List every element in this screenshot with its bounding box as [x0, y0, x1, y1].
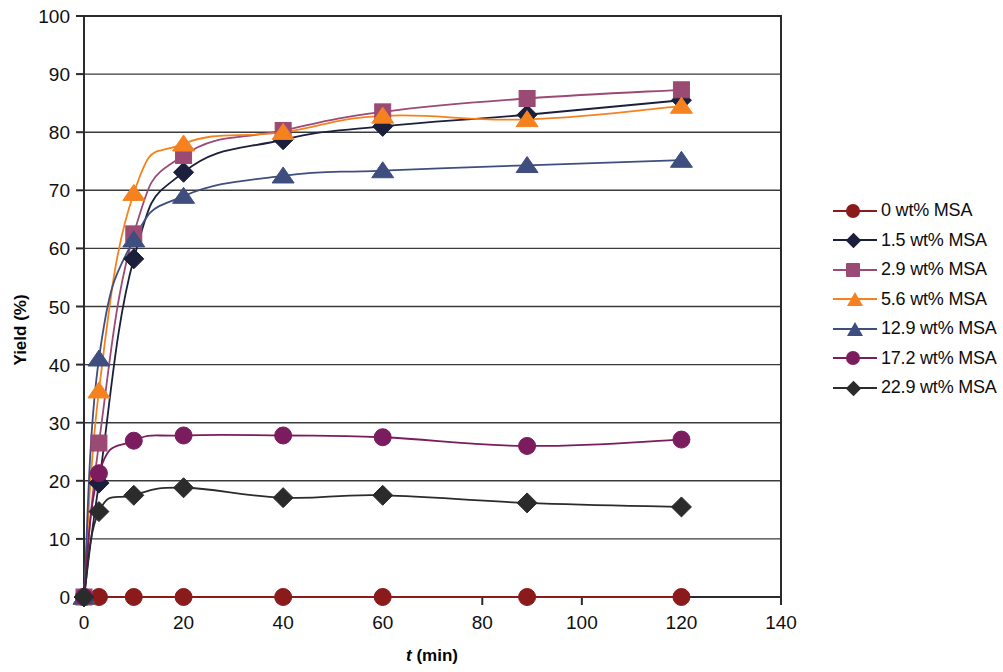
y-tick-label: 40 — [49, 355, 70, 376]
y-tick-label: 100 — [38, 6, 70, 27]
y-tick-label: 0 — [59, 587, 70, 608]
legend-marker-square-icon — [846, 263, 860, 277]
data-point-22-9-wt-msa — [671, 497, 691, 517]
legend-key-0-wt-msa — [833, 201, 877, 221]
data-point-0-wt-msa — [175, 589, 192, 606]
data-point-2-9-wt-msa — [673, 82, 689, 98]
legend-label-1-5-wt-msa: 1.5 wt% MSA — [877, 230, 987, 251]
legend-item-0-wt-msa[interactable]: 0 wt% MSA — [833, 196, 1003, 226]
y-tick-label: 90 — [49, 64, 70, 85]
data-point-17-2-wt-msa — [673, 431, 690, 448]
x-tick-label: 120 — [666, 612, 698, 633]
x-tick-label: 140 — [765, 612, 797, 633]
data-point-12-9-wt-msa — [88, 350, 110, 366]
chart-page: 0102030405060708090100 02040608010012014… — [0, 0, 1003, 672]
data-point-17-2-wt-msa — [275, 427, 292, 444]
legend-label-12-9-wt-msa: 12.9 wt% MSA — [877, 318, 997, 339]
x-tick-label: 60 — [372, 612, 393, 633]
x-tick-label: 80 — [472, 612, 493, 633]
chart-legend: 0 wt% MSA1.5 wt% MSA2.9 wt% MSA5.6 wt% M… — [833, 196, 1003, 403]
data-point-12-9-wt-msa — [670, 151, 692, 167]
x-tick-label: 20 — [173, 612, 194, 633]
chart-container: 0102030405060708090100 02040608010012014… — [0, 0, 820, 672]
x-axis-title-units: (min) — [412, 646, 458, 665]
legend-key-12-9-wt-msa — [833, 319, 877, 339]
y-tick-label: 20 — [49, 471, 70, 492]
y-axis-tick-labels: 0102030405060708090100 — [38, 6, 70, 608]
y-tick-label: 50 — [49, 297, 70, 318]
data-point-17-2-wt-msa — [175, 427, 192, 444]
x-tick-label: 0 — [79, 612, 90, 633]
x-tick-label: 40 — [273, 612, 294, 633]
data-point-0-wt-msa — [519, 589, 536, 606]
x-tick-label: 100 — [566, 612, 598, 633]
data-point-0-wt-msa — [275, 589, 292, 606]
data-point-5-6-wt-msa — [123, 184, 145, 200]
y-tick-label: 80 — [49, 122, 70, 143]
data-point-17-2-wt-msa — [90, 465, 107, 482]
legend-key-1-5-wt-msa — [833, 230, 877, 250]
legend-key-2-9-wt-msa — [833, 260, 877, 280]
legend-marker-circle-icon — [846, 351, 860, 365]
data-point-22-9-wt-msa — [517, 493, 537, 513]
data-point-22-9-wt-msa — [373, 485, 393, 505]
legend-item-17-2-wt-msa[interactable]: 17.2 wt% MSA — [833, 344, 1003, 374]
legend-label-2-9-wt-msa: 2.9 wt% MSA — [877, 259, 987, 280]
data-point-5-6-wt-msa — [173, 135, 195, 151]
legend-item-2-9-wt-msa[interactable]: 2.9 wt% MSA — [833, 255, 1003, 285]
series-markers — [73, 82, 692, 607]
y-tick-label: 60 — [49, 238, 70, 259]
legend-label-0-wt-msa: 0 wt% MSA — [877, 200, 972, 221]
data-point-2-9-wt-msa — [91, 435, 107, 451]
y-tick-label: 70 — [49, 180, 70, 201]
data-point-17-2-wt-msa — [125, 432, 142, 449]
legend-item-12-9-wt-msa[interactable]: 12.9 wt% MSA — [833, 314, 1003, 344]
legend-item-1-5-wt-msa[interactable]: 1.5 wt% MSA — [833, 226, 1003, 256]
legend-marker-diamond-icon — [846, 380, 862, 396]
data-point-0-wt-msa — [673, 589, 690, 606]
data-point-1-5-wt-msa — [174, 162, 194, 182]
series-line — [84, 435, 681, 597]
legend-marker-circle-icon — [846, 204, 860, 218]
yield-vs-time-line-chart: 0102030405060708090100 02040608010012014… — [0, 0, 820, 672]
legend-label-17-2-wt-msa: 17.2 wt% MSA — [877, 348, 997, 369]
legend-key-5-6-wt-msa — [833, 289, 877, 309]
legend-item-22-9-wt-msa[interactable]: 22.9 wt% MSA — [833, 373, 1003, 403]
legend-key-17-2-wt-msa — [833, 348, 877, 368]
x-axis-tick-labels: 020406080100120140 — [79, 612, 797, 633]
data-point-0-wt-msa — [125, 589, 142, 606]
y-axis-title: Yield (%) — [11, 294, 30, 365]
data-point-2-9-wt-msa — [519, 91, 535, 107]
x-axis-title: t (min) — [406, 646, 458, 665]
data-point-0-wt-msa — [374, 589, 391, 606]
data-point-22-9-wt-msa — [273, 488, 293, 508]
legend-key-22-9-wt-msa — [833, 378, 877, 398]
legend-marker-triangle-icon — [847, 292, 863, 306]
y-tick-label: 10 — [49, 529, 70, 550]
y-tick-label: 30 — [49, 413, 70, 434]
legend-marker-triangle-icon — [847, 322, 863, 336]
legend-label-22-9-wt-msa: 22.9 wt% MSA — [877, 377, 997, 398]
data-point-17-2-wt-msa — [374, 429, 391, 446]
data-point-22-9-wt-msa — [124, 485, 144, 505]
legend-marker-diamond-icon — [846, 233, 862, 249]
legend-item-5-6-wt-msa[interactable]: 5.6 wt% MSA — [833, 285, 1003, 315]
series-line — [84, 160, 681, 597]
legend-label-5-6-wt-msa: 5.6 wt% MSA — [877, 289, 987, 310]
data-point-17-2-wt-msa — [519, 437, 536, 454]
